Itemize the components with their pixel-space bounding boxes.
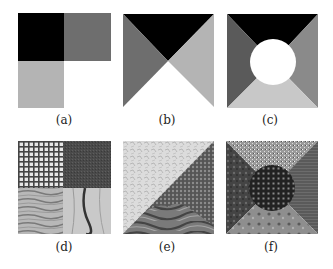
panel-label-f: (f) [251, 240, 291, 254]
panel-f [226, 141, 318, 234]
synthetic-mosaic-b [123, 14, 214, 107]
texture-mosaic-f [226, 141, 318, 234]
texture-mosaic-e [123, 141, 214, 234]
panel-a [18, 13, 111, 108]
panel-label-c: (c) [250, 113, 290, 127]
synthetic-mosaic-a [18, 13, 111, 108]
panel-label-a: (a) [44, 113, 84, 127]
panel-c [227, 14, 318, 108]
panel-e [123, 141, 214, 234]
panel-b [123, 14, 214, 107]
panel-d [18, 141, 111, 234]
panel-label-b: (b) [147, 113, 187, 127]
synthetic-mosaic-c [227, 14, 318, 108]
texture-mosaic-d [18, 141, 111, 234]
panel-label-d: (d) [44, 240, 84, 254]
panel-label-e: (e) [147, 240, 187, 254]
